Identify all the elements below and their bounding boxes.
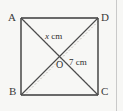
- measurement-label-7-cm: 7 cm: [69, 58, 87, 67]
- measurement-variable-x: x: [45, 31, 49, 41]
- centre-point-label-o: O: [56, 60, 63, 70]
- measurement-value-7: 7: [69, 57, 74, 67]
- geometry-figure: A D B C O x cm 7 cm: [0, 0, 123, 111]
- vertex-label-c: C: [101, 86, 108, 97]
- vertex-label-b: B: [9, 86, 16, 97]
- measurement-unit-x: cm: [51, 31, 62, 41]
- page-edge-rule: [116, 0, 117, 111]
- vertex-label-a: A: [8, 12, 16, 23]
- measurement-unit-7: cm: [76, 57, 87, 67]
- vertex-label-d: D: [101, 12, 109, 23]
- measurement-label-x-cm: x cm: [45, 32, 62, 41]
